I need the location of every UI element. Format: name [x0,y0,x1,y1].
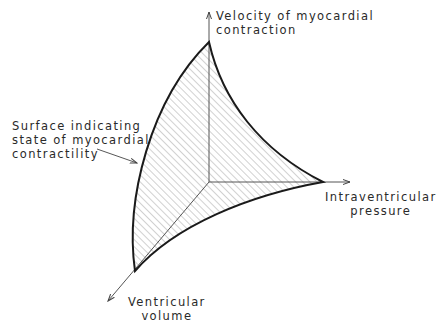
volume-axis-label: Ventricular volume [128,295,206,323]
volume-label-line1: Ventricular [128,295,206,309]
pressure-label-line1: Intraventricular [325,190,437,204]
velocity-axis-label: Velocity of myocardial contraction [216,9,374,37]
volume-label-line2: volume [128,309,206,323]
surface-label: Surface indicating state of myocardial c… [12,119,150,161]
velocity-label-line2: contraction [216,23,374,37]
contractility-surface [133,42,323,271]
surface-label-line3: contractility [12,147,150,161]
pressure-axis-label: Intraventricular pressure [325,190,437,218]
surface-label-line1: Surface indicating [12,119,150,133]
pressure-label-line2: pressure [325,204,437,218]
velocity-label-line1: Velocity of myocardial [216,9,374,23]
surface-label-line2: state of myocardial [12,133,150,147]
